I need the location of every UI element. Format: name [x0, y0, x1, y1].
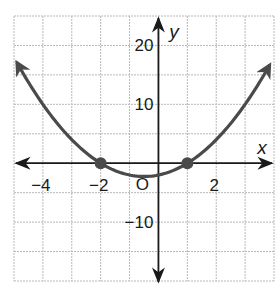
parabola-path	[17, 62, 270, 176]
y-tick-label: 20	[135, 36, 154, 55]
y-tick-label: −10	[125, 213, 154, 232]
axes	[16, 18, 272, 282]
parabola-curve	[17, 62, 270, 176]
x-tick-label: 2	[209, 176, 218, 195]
x-tick-label: −2	[89, 176, 108, 195]
origin-label: O	[136, 175, 149, 194]
grid	[14, 16, 274, 281]
y-axis-label: y	[167, 21, 180, 42]
x-axis-label: x	[256, 137, 268, 158]
y-tick-label: 10	[135, 95, 154, 114]
parabola-graph: −4−222010−10Oxy	[0, 0, 278, 287]
x-tick-label: −4	[31, 176, 50, 195]
x-intercept-point	[95, 157, 107, 169]
x-intercept-point	[181, 157, 193, 169]
axis-labels: −4−222010−10Oxy	[31, 21, 268, 232]
